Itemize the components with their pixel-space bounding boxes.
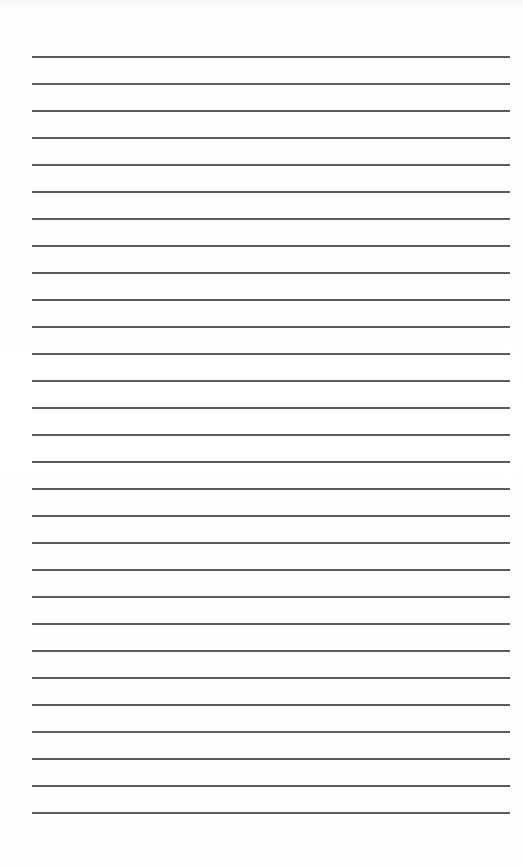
lined-paper-sheet <box>0 0 523 867</box>
ruled-line <box>32 785 510 787</box>
ruled-line <box>32 83 510 85</box>
ruled-line <box>32 353 510 355</box>
ruled-line <box>32 164 510 166</box>
ruled-line <box>32 569 510 571</box>
ruled-line <box>32 731 510 733</box>
ruled-line <box>32 191 510 193</box>
ruled-line <box>32 677 510 679</box>
ruled-line <box>32 596 510 598</box>
ruled-line <box>32 137 510 139</box>
ruled-line <box>32 110 510 112</box>
ruled-line <box>32 812 510 814</box>
ruled-line <box>32 272 510 274</box>
ruled-line <box>32 650 510 652</box>
ruled-line <box>32 218 510 220</box>
ruled-line <box>32 704 510 706</box>
ruled-line <box>32 461 510 463</box>
ruled-line <box>32 380 510 382</box>
ruled-line <box>32 299 510 301</box>
ruled-line <box>32 326 510 328</box>
ruled-line <box>32 434 510 436</box>
ruled-line <box>32 758 510 760</box>
ruled-line <box>32 245 510 247</box>
ruled-line <box>32 407 510 409</box>
ruled-line <box>32 488 510 490</box>
ruled-line <box>32 623 510 625</box>
ruled-line <box>32 515 510 517</box>
ruled-line <box>32 542 510 544</box>
ruled-line <box>32 56 510 58</box>
